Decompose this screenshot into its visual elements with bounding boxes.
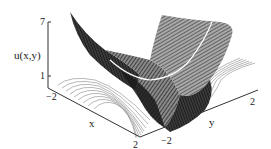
- y-axis-label: y: [209, 117, 215, 128]
- x-tick-label-neg2: −2: [46, 92, 57, 102]
- z-tick-label-1: 1: [40, 71, 45, 81]
- y-tick-label-2: 2: [250, 97, 255, 107]
- z-axis-label: u(x,y): [14, 50, 41, 61]
- x-axis-label: x: [89, 118, 95, 129]
- x-tick-label-2: 2: [133, 140, 138, 149]
- y-tick-label-neg2: −2: [161, 136, 172, 146]
- z-tick-label-7: 7: [40, 17, 45, 27]
